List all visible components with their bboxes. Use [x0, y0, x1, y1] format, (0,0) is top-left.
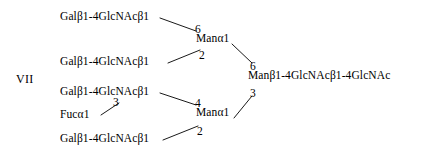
linkage-antenna2-man-upper: 2	[199, 50, 205, 62]
node-core-chain: Manβ1-4GlcNAcβ1-4GlcNAc	[248, 70, 390, 82]
linkage-man-lower-core: 3	[250, 88, 256, 100]
glycan-structure-figure: VII Galβ1-4GlcNAcβ1 Galβ1-4GlcNAcβ1 Galβ…	[0, 0, 430, 160]
node-mannose-upper: Manα1	[196, 33, 229, 45]
line-antenna3-to-man-lower	[160, 93, 196, 105]
linkage-antenna1-man-upper: 6	[195, 24, 201, 36]
linkage-man-upper-core: 6	[250, 61, 256, 73]
line-antenna2-to-man-upper	[168, 50, 200, 63]
linkage-antenna4-man-lower: 2	[197, 126, 203, 138]
node-fucose: Fucα1	[60, 109, 90, 121]
node-antenna-4: Galβ1-4GlcNAcβ1	[60, 133, 149, 145]
node-antenna-2: Galβ1-4GlcNAcβ1	[60, 56, 149, 68]
line-man-upper-to-core	[232, 44, 252, 63]
node-mannose-lower: Manα1	[196, 107, 229, 119]
figure-label-roman-numeral: VII	[16, 73, 34, 85]
line-antenna1-to-man-upper	[160, 18, 196, 31]
node-antenna-3: Galβ1-4GlcNAcβ1	[60, 86, 149, 98]
node-antenna-1: Galβ1-4GlcNAcβ1	[60, 11, 149, 23]
linkage-fucose-antenna3: 3	[113, 97, 119, 109]
line-antenna4-to-man-lower	[163, 126, 198, 140]
linkage-antenna3-man-lower: 4	[195, 98, 201, 110]
